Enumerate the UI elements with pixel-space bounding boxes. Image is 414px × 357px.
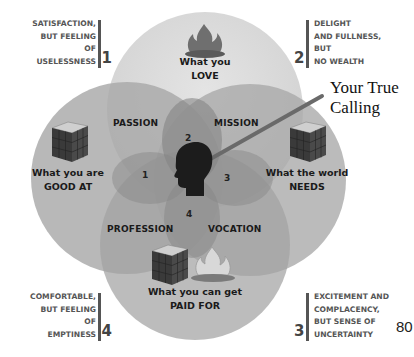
true-calling-callout: Your True Calling — [330, 78, 399, 118]
corner-tr-bar — [306, 20, 309, 68]
label-paid-for-line2: PAID FOR — [140, 299, 250, 313]
label-good-at: What you are GOOD AT — [28, 166, 108, 194]
corner-tr-line4: NO WEALTH — [314, 56, 381, 69]
label-paid-for: What you can get PAID FOR — [140, 285, 250, 313]
corner-tl-line3: OF — [32, 43, 96, 56]
corner-note-bottom-left: COMFORTABLE, BUT FEELING OF EMPTINESS 4 — [0, 291, 112, 343]
inner-number-1: 1 — [142, 170, 148, 180]
label-love-line2: LOVE — [165, 69, 245, 83]
label-world-needs-line1: What the world — [262, 166, 352, 180]
corner-tr-number: 2 — [294, 52, 304, 65]
callout-line1: Your True — [330, 78, 399, 98]
rubiks-cube-icon — [290, 122, 326, 162]
corner-bl-line3: OF — [30, 316, 96, 329]
inner-number-3: 3 — [224, 173, 230, 183]
corner-br-line1: EXCITEMENT AND — [314, 291, 389, 304]
page-number: 80 — [396, 318, 413, 335]
corner-bl-line1: COMFORTABLE, — [30, 291, 96, 304]
rubiks-cube-icon — [152, 245, 188, 285]
corner-tl-number: 1 — [102, 52, 112, 65]
corner-bl-bar — [98, 293, 101, 341]
callout-line2: Calling — [330, 98, 399, 118]
corner-tr-line1: DELIGHT — [314, 18, 381, 31]
corner-br-line3: BUT SENSE OF — [314, 316, 389, 329]
corner-tl-bar — [98, 20, 101, 68]
corner-br-line4: UNCERTAINTY — [314, 329, 389, 342]
label-paid-for-line1: What you can get — [140, 285, 250, 299]
ikigai-diagram: What you LOVE What you are GOOD AT What … — [0, 0, 414, 357]
corner-bl-line2: BUT FEELING — [30, 304, 96, 317]
corner-tr-line3: BUT — [314, 43, 381, 56]
corner-note-top-left: SATISFACTION, BUT FEELING OF USELESSNESS… — [0, 18, 112, 70]
corner-bl-number: 4 — [102, 325, 112, 338]
corner-bl-line4: EMPTINESS — [30, 329, 96, 342]
region-mission: MISSION — [214, 118, 259, 128]
label-love-line1: What you — [165, 55, 245, 69]
corner-tl-line1: SATISFACTION, — [32, 18, 96, 31]
label-good-at-line2: GOOD AT — [28, 180, 108, 194]
region-profession: PROFESSION — [107, 224, 174, 234]
corner-br-bar — [306, 293, 309, 341]
corner-tl-line4: USELESSNESS — [32, 56, 96, 69]
inner-number-4: 4 — [186, 209, 192, 219]
corner-tl-line2: BUT FEELING — [32, 31, 96, 44]
rubiks-cube-icon — [52, 122, 88, 162]
inner-number-2: 2 — [185, 133, 191, 143]
region-passion: PASSION — [113, 118, 158, 128]
label-love: What you LOVE — [165, 55, 245, 83]
corner-note-top-right: 2 DELIGHT AND FULLNESS, BUT NO WEALTH — [294, 18, 414, 70]
corner-br-line2: COMPLACENCY, — [314, 304, 389, 317]
corner-br-number: 3 — [294, 325, 304, 338]
corner-tr-line2: AND FULLNESS, — [314, 31, 381, 44]
label-good-at-line1: What you are — [28, 166, 108, 180]
label-world-needs: What the world NEEDS — [262, 166, 352, 194]
label-world-needs-line2: NEEDS — [262, 180, 352, 194]
corner-note-bottom-right: 3 EXCITEMENT AND COMPLACENCY, BUT SENSE … — [294, 291, 414, 343]
region-vocation: VOCATION — [208, 224, 262, 234]
